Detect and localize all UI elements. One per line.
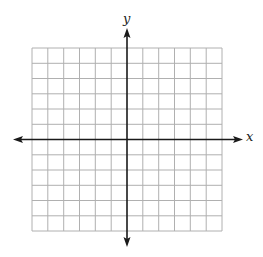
y-axis-label: y	[123, 12, 130, 25]
y-axis	[124, 28, 131, 247]
coordinate-plane	[0, 0, 263, 257]
x-axis-label: x	[246, 130, 253, 143]
